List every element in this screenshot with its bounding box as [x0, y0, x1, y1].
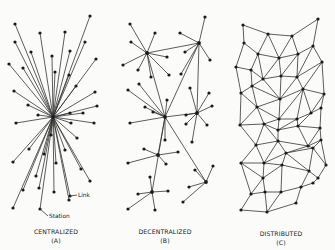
link-line — [264, 163, 282, 165]
link-line — [130, 24, 147, 53]
station-node — [21, 66, 24, 69]
link-line — [158, 152, 178, 155]
link-line — [147, 33, 155, 53]
link-line — [13, 117, 53, 208]
link-line — [320, 128, 321, 140]
link-line — [236, 43, 244, 67]
station-node — [34, 174, 37, 177]
station-node — [176, 150, 179, 153]
link-line — [267, 192, 281, 212]
link-line — [244, 43, 258, 54]
centralized-letter: (A) — [51, 237, 60, 244]
link-line — [281, 187, 301, 192]
link-line — [257, 107, 264, 124]
station-node — [208, 58, 211, 61]
station-node — [29, 50, 32, 53]
distributed-letter: (C) — [276, 239, 285, 246]
station-node — [63, 148, 66, 151]
hub-link-line — [165, 117, 206, 182]
station-node — [279, 190, 282, 193]
hub-node — [195, 111, 199, 115]
hub-node — [51, 115, 55, 119]
link-line — [252, 86, 280, 99]
link-line — [257, 107, 279, 119]
link-line — [128, 155, 158, 163]
link-line — [240, 107, 257, 125]
link-line — [152, 192, 155, 210]
station-node — [54, 161, 57, 164]
station-node — [21, 188, 24, 191]
station-node — [143, 105, 146, 108]
station-node — [93, 90, 96, 93]
station-node — [311, 44, 314, 47]
centralized-network — [7, 14, 98, 210]
centralized-title: CENTRALIZED — [34, 228, 78, 235]
station-node — [121, 63, 124, 66]
station-node — [280, 163, 283, 166]
station-node — [151, 110, 154, 113]
station-node — [239, 91, 242, 94]
hub-node — [163, 115, 167, 119]
link-line — [256, 141, 278, 145]
link-line — [309, 148, 313, 171]
link-line — [292, 19, 318, 36]
link-line — [15, 24, 53, 117]
station-node — [319, 138, 322, 141]
hub-node — [204, 180, 208, 184]
station-node — [178, 31, 181, 34]
link-line — [130, 117, 165, 123]
link-line — [313, 19, 318, 46]
station-node — [249, 68, 252, 71]
station-node — [13, 22, 16, 25]
annotations: LinkStation — [40, 192, 91, 219]
station-node — [207, 91, 210, 94]
station-node — [263, 190, 266, 193]
link-line — [298, 126, 308, 146]
station-node — [181, 200, 184, 203]
station-node — [183, 50, 186, 53]
link-line — [251, 54, 258, 70]
link-line — [263, 178, 265, 192]
station-node — [276, 128, 279, 131]
station-node — [67, 198, 70, 201]
station-node — [36, 113, 39, 116]
station-node — [279, 74, 282, 77]
link-line — [53, 42, 85, 117]
hub-link-line — [147, 53, 165, 117]
hub-node — [156, 153, 160, 157]
station-node — [128, 22, 131, 25]
station-node — [265, 210, 268, 213]
station-node — [294, 201, 297, 204]
station-node — [13, 40, 16, 43]
link-line — [278, 141, 286, 153]
station-node — [52, 190, 55, 193]
link-line — [152, 191, 168, 192]
link-line — [264, 119, 279, 124]
link-line — [240, 93, 241, 125]
station-node — [163, 138, 166, 141]
station-node — [79, 167, 82, 170]
distributed-title: DISTRIBUTED — [260, 230, 303, 237]
station-node — [277, 56, 280, 59]
link-line — [258, 54, 263, 79]
station-node — [14, 121, 17, 124]
station-node — [295, 117, 298, 120]
link-line — [53, 92, 95, 117]
link-line — [36, 117, 53, 176]
link-line — [265, 192, 267, 212]
station-node — [210, 104, 213, 107]
link-line — [180, 33, 199, 43]
link-line — [241, 163, 263, 178]
station-node — [296, 52, 299, 55]
link-line — [278, 119, 279, 130]
station-node — [26, 103, 29, 106]
link-line — [53, 75, 69, 117]
link-line — [206, 166, 213, 182]
annotation-link: Link — [78, 192, 91, 198]
link-line — [320, 108, 321, 128]
distributed-network — [234, 17, 327, 213]
hub-node — [150, 190, 154, 194]
station-node — [311, 181, 314, 184]
station-node — [239, 208, 242, 211]
station-node — [322, 92, 325, 95]
